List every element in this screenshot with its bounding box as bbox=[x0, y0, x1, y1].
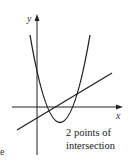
x-axis-label: x bbox=[115, 110, 121, 121]
y-axis-arrow-icon bbox=[35, 14, 40, 21]
caption-line-1: 2 points of bbox=[66, 126, 115, 139]
cropped-edge-text: e bbox=[0, 146, 4, 157]
parabola-curve bbox=[30, 35, 90, 123]
y-axis-label: y bbox=[26, 13, 32, 24]
straight-line bbox=[17, 73, 112, 130]
x-axis-arrow-icon bbox=[116, 105, 123, 110]
intersection-caption: 2 points of intersection bbox=[66, 126, 115, 152]
caption-line-2: intersection bbox=[66, 139, 115, 152]
